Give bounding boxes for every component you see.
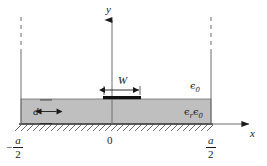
right-wall-position-label: a 2 (206, 135, 216, 160)
left-wall-fraction: a 2 (13, 135, 23, 160)
strip-conductor (103, 96, 141, 99)
left-wall-denominator: 2 (13, 147, 23, 160)
y-axis-label: y (106, 4, 111, 15)
right-wall-denominator: 2 (206, 147, 216, 160)
substrate-thickness-label: d (33, 106, 39, 117)
origin-label: 0 (107, 135, 113, 146)
substrate-permittivity-label: ϵrϵ0 (184, 107, 203, 120)
strip-width-label: W (118, 75, 127, 86)
left-wall-minus-sign: − (6, 142, 13, 153)
x-axis-label: x (250, 128, 255, 139)
left-wall-numerator: a (13, 135, 23, 147)
ground-plane-hatching (15, 124, 213, 131)
right-wall-numerator: a (206, 135, 216, 147)
air-permittivity-subscript: 0 (196, 86, 200, 94)
air-permittivity-label: ϵ0 (190, 81, 200, 94)
left-wall-position-label: − a 2 (6, 135, 23, 160)
substrate-permittivity-subscript-2: 0 (199, 112, 203, 120)
microstrip-cross-section-diagram: y x 0 W d ϵ0 ϵrϵ0 − a 2 a 2 (0, 0, 267, 166)
diagram-canvas (0, 0, 267, 166)
right-wall-fraction: a 2 (206, 135, 216, 160)
